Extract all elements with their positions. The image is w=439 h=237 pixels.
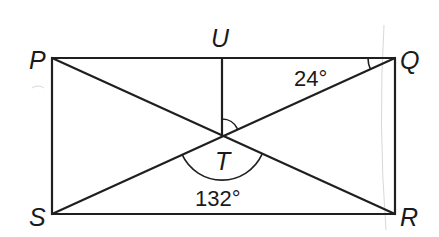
angle-label-Q: 24°	[294, 66, 327, 91]
vertex-label-Q: Q	[400, 46, 419, 74]
angle-label-T: 132°	[195, 186, 241, 211]
scan-artifact	[32, 86, 44, 88]
scan-artifact	[381, 25, 386, 230]
vertex-label-R: R	[400, 203, 418, 231]
vertex-label-T: T	[215, 147, 232, 175]
vertex-label-P: P	[29, 46, 46, 74]
vertex-label-S: S	[29, 203, 46, 231]
angle-arc-UTQ	[222, 119, 238, 129]
geometry-diagram: P U Q S R T 24° 132°	[0, 0, 439, 237]
vertex-label-U: U	[211, 24, 230, 52]
angle-arc-Q	[368, 58, 370, 69]
